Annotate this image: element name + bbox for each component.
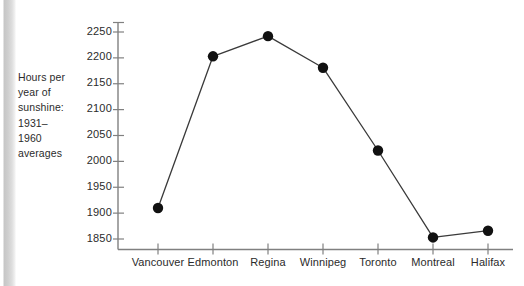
- chart-axes: [113, 22, 513, 255]
- x-axis-tick-label: Halifax: [471, 256, 505, 268]
- y-axis-tick-label: 2250: [72, 25, 112, 37]
- data-point-marker: [373, 145, 383, 155]
- x-axis-tick-label: Winnipeg: [300, 256, 347, 268]
- y-axis-tick-label: 2200: [72, 50, 112, 62]
- y-axis-tick-labels: 185019001950200020502100215022002250: [72, 0, 112, 286]
- x-axis-tick-label: Vancouver: [132, 256, 185, 268]
- data-point-marker: [483, 226, 493, 236]
- y-axis-tick-label: 2150: [72, 76, 112, 88]
- figure-container: Hours per year of sunshine: 1931– 1960 a…: [0, 0, 524, 286]
- y-axis-tick-label: 2000: [72, 154, 112, 166]
- chart-series: [153, 31, 493, 243]
- y-axis-tick-label: 1950: [72, 180, 112, 192]
- data-point-marker: [428, 232, 438, 242]
- x-axis-tick-label: Toronto: [359, 256, 396, 268]
- line-chart: Hours per year of sunshine: 1931– 1960 a…: [0, 0, 524, 286]
- data-point-marker: [208, 51, 218, 61]
- y-axis-tick-label: 1850: [72, 232, 112, 244]
- x-axis-tick-label: Edmonton: [188, 256, 239, 268]
- y-axis-tick-label: 2100: [72, 102, 112, 114]
- x-axis-tick-label: Regina: [250, 256, 285, 268]
- y-axis-tick-label: 1900: [72, 206, 112, 218]
- data-point-marker: [318, 63, 328, 73]
- data-point-marker: [153, 203, 163, 213]
- y-axis-tick-label: 2050: [72, 128, 112, 140]
- x-axis-tick-label: Montreal: [411, 256, 455, 268]
- data-point-marker: [263, 31, 273, 41]
